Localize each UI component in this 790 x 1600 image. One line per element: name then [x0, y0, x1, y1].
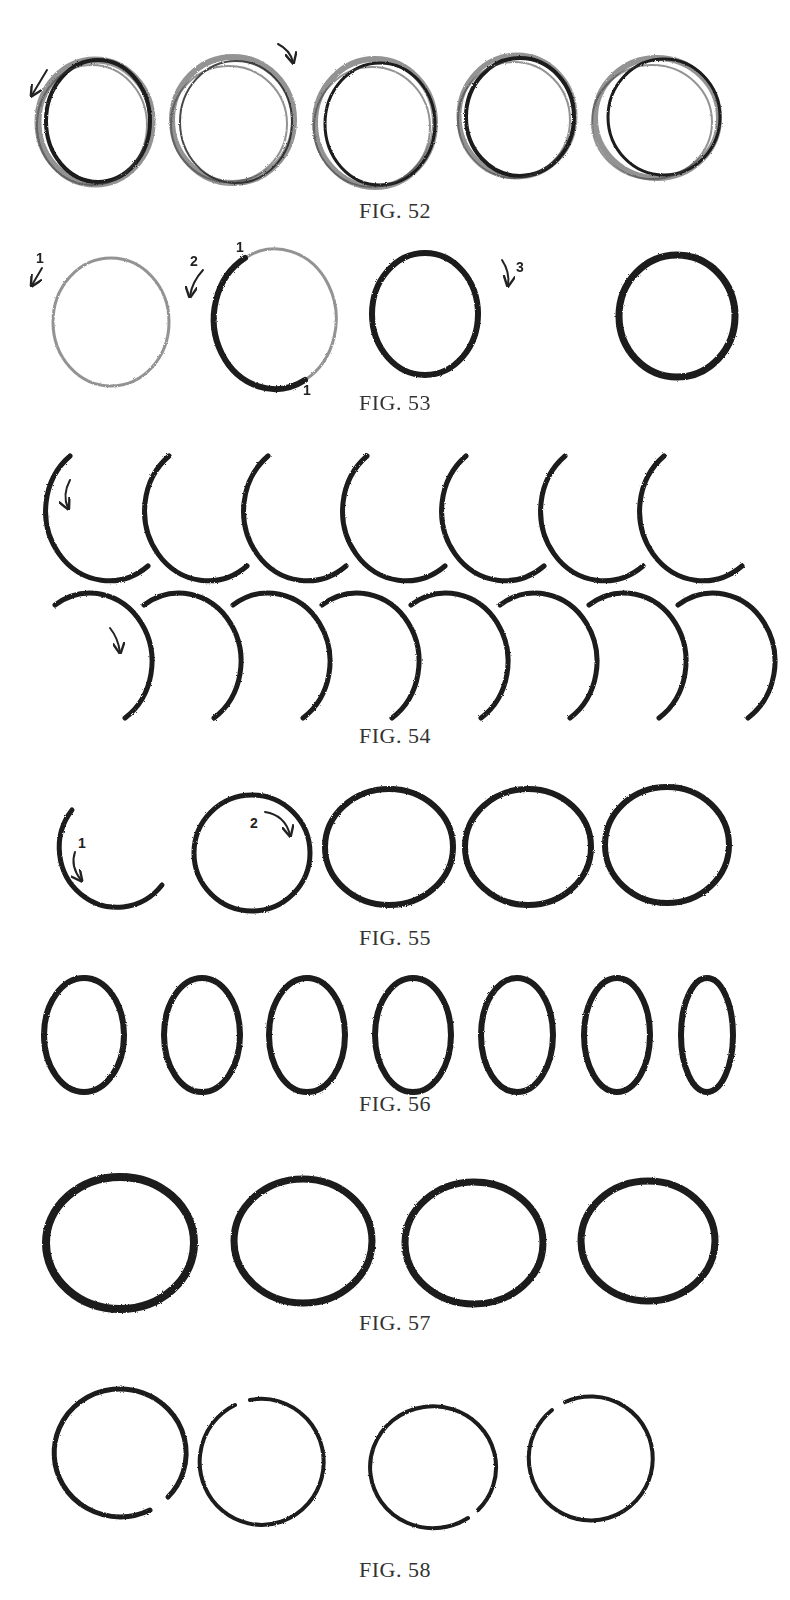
fig55-circle-2: [194, 795, 310, 911]
fig58-circle-1: [54, 1389, 186, 1517]
figure-52: FIG. 52: [32, 44, 720, 223]
fig52-circle-5: [592, 58, 720, 179]
fig57-circle-1: [46, 1177, 194, 1309]
fig57-circle-3: [405, 1182, 543, 1304]
fig55-step-2-arrow-icon: [265, 812, 290, 835]
right-arc: [500, 593, 597, 718]
left-arc: [442, 456, 544, 581]
fig57-circle-4: [581, 1181, 715, 1301]
fig-54-caption: FIG. 54: [359, 723, 431, 748]
step-1-arrow-icon: [32, 268, 42, 285]
fig52-circle-2: [171, 57, 294, 183]
fig-56-caption: FIG. 56: [359, 1091, 431, 1116]
fig57-circle-2: [234, 1179, 372, 1303]
step-3-arrow-icon: [502, 260, 508, 285]
fig52-circle-4: [458, 55, 575, 178]
step-2-label: 2: [190, 253, 198, 269]
fig58-circle-2: [200, 1399, 324, 1525]
figure-sheet: FIG. 52 1 2 1 1 3 FIG. 53 FIG. 54: [0, 0, 790, 1600]
figure-56: [44, 978, 733, 1092]
ellipse: [584, 978, 650, 1092]
document-page: FIG. 52 1 2 1 1 3 FIG. 53 FIG. 54: [0, 0, 790, 1600]
figure-58: [54, 1389, 653, 1528]
tick-label-top: 1: [236, 239, 244, 255]
fig-53-caption: FIG. 53: [359, 390, 431, 415]
right-arc: [55, 593, 152, 718]
step-1-label: 1: [36, 250, 44, 266]
left-arc: [640, 456, 742, 581]
ellipse: [375, 978, 451, 1092]
left-arc: [46, 456, 148, 581]
right-arc: [233, 593, 330, 718]
fig-58-caption: FIG. 58: [359, 1557, 431, 1582]
fig53-circle-2-dark: [214, 258, 305, 389]
step-3-label: 3: [516, 259, 524, 275]
ellipse: [44, 978, 124, 1092]
figure-54: [46, 456, 775, 718]
fig55-circle-5: [605, 787, 729, 903]
fig55-arc-1: [59, 810, 162, 907]
cw-arrow-icon: [278, 44, 293, 62]
ellipse: [164, 978, 240, 1092]
fig58-circle-3: [370, 1406, 496, 1528]
step-2-arrow-icon: [190, 270, 203, 296]
ellipse: [481, 978, 553, 1092]
left-arc: [145, 456, 247, 581]
right-arc: [589, 593, 686, 718]
fig52-circle-1: [37, 60, 152, 185]
fig52-circle-3: [314, 59, 435, 187]
right-arc: [322, 593, 419, 718]
right-arc: [411, 593, 508, 718]
left-arc: [541, 456, 643, 581]
left-arc: [244, 456, 346, 581]
fig-55-caption: FIG. 55: [359, 925, 431, 950]
fig55-step-1-arrow-icon: [73, 852, 81, 880]
fig53-circle-2-light: [245, 249, 336, 380]
tick-label-bottom: 1: [303, 382, 311, 398]
right-arc: [678, 593, 775, 718]
fig53-circle-3: [372, 253, 478, 375]
right-arc: [144, 593, 241, 718]
ellipse: [681, 978, 733, 1092]
fig53-circle-4: [619, 255, 735, 377]
fig-57-caption: FIG. 57: [359, 1310, 431, 1335]
fig55-step-1-label: 1: [78, 835, 86, 851]
figure-53: 1 2 1 1 3 FIG. 53: [32, 239, 735, 415]
fig55-circle-4: [465, 789, 591, 905]
fig53-circle-1: [53, 258, 169, 386]
fig-52-caption: FIG. 52: [359, 198, 431, 223]
fig55-step-2-label: 2: [250, 815, 258, 831]
arc-direction-arrow-icon: [110, 628, 120, 652]
figure-55: 1 2 FIG. 55: [59, 787, 729, 950]
arc-direction-arrow-icon: [65, 480, 70, 508]
left-arc: [343, 456, 445, 581]
ellipse: [269, 978, 345, 1092]
fig58-circle-4: [529, 1396, 653, 1520]
fig55-circle-3: [325, 789, 453, 905]
figure-57: [46, 1177, 715, 1309]
